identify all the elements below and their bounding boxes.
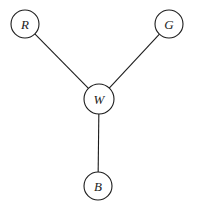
node-label-W: W [94,92,106,107]
edge-R-W [35,34,89,88]
node-label-B: B [94,179,102,194]
node-label-G: G [164,17,174,32]
node-G: G [155,10,183,38]
graph-diagram: RGWB [0,0,199,215]
node-label-R: R [20,17,29,32]
graph-canvas: RGWB [0,0,199,215]
node-B: B [84,172,112,200]
edge-G-W [109,34,159,88]
node-R: R [11,10,39,38]
edge-W-B [98,114,99,172]
node-W: W [84,84,114,114]
